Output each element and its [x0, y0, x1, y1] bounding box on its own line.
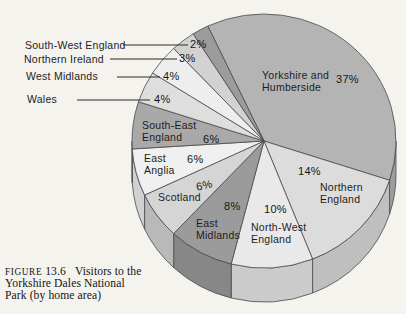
slice-label: Midlands	[196, 229, 240, 241]
slice-label: England	[320, 193, 360, 205]
slice-label: Anglia	[144, 164, 175, 176]
slice-percent: 10%	[264, 204, 287, 215]
figure-word: FIGURE	[5, 267, 42, 277]
callout-label: Wales	[27, 93, 57, 105]
slice-percent: 6%	[203, 134, 220, 145]
callout-label: South-West England	[25, 39, 126, 51]
slice-label: Yorkshire and	[262, 69, 329, 81]
slice-percent: 4%	[154, 94, 171, 105]
slice-label: Northern	[320, 181, 363, 193]
slice-label: North-West	[251, 221, 306, 233]
slice-label: Scotland	[158, 191, 201, 203]
figure-caption: FIGURE 13.6Visitors to the Yorkshire Dal…	[5, 266, 185, 301]
slice-percent: 4%	[163, 71, 180, 82]
slice-percent: 2%	[190, 39, 207, 50]
figure-13-6-pie-chart: Yorkshire andHumberside37%NorthernEnglan…	[0, 0, 406, 314]
callout-label: West Midlands	[26, 70, 98, 82]
slice-label: England	[251, 233, 291, 245]
slice-label: England	[142, 131, 182, 143]
slice-percent: 14%	[298, 166, 321, 177]
slice-label: East	[196, 217, 218, 229]
slice-percent: 3%	[179, 53, 196, 64]
slice-percent: 37%	[336, 74, 359, 85]
caption-text-1: Visitors to the	[75, 265, 142, 278]
slice-label: Humberside	[262, 81, 321, 93]
slice-percent: 8%	[224, 201, 241, 212]
slice-percent: 6%	[187, 154, 204, 165]
callout-label: Northern Ireland	[24, 53, 104, 65]
slice-label: East	[144, 152, 166, 164]
caption-line-3: Park (by home area)	[5, 290, 185, 301]
figure-number: 13.6	[45, 265, 66, 278]
slice-label: South-East	[142, 119, 196, 131]
